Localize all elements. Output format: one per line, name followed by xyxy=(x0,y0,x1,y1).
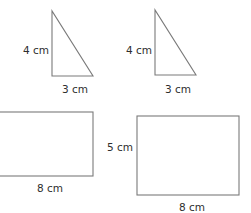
triangle-a-height-label: 4 cm xyxy=(23,44,49,56)
rectangle-a-outline xyxy=(0,112,93,176)
rectangle-a: 8 cm xyxy=(0,112,93,194)
triangle-b-height-label: 4 cm xyxy=(126,44,152,56)
rectangle-b-width-label: 8 cm xyxy=(179,201,205,213)
triangle-b: 4 cm 3 cm xyxy=(126,10,196,95)
triangle-a-outline xyxy=(52,11,93,76)
triangle-a-base-label: 3 cm xyxy=(62,83,88,95)
triangle-a: 4 cm 3 cm xyxy=(23,11,93,95)
rectangle-a-width-label: 8 cm xyxy=(37,182,63,194)
triangle-b-outline xyxy=(155,10,196,75)
shapes-diagram: 4 cm 3 cm 4 cm 3 cm 8 cm 5 cm 8 cm xyxy=(0,0,251,213)
rectangle-b-height-label: 5 cm xyxy=(107,141,133,153)
rectangle-b-outline xyxy=(137,116,239,195)
rectangle-b: 5 cm 8 cm xyxy=(107,116,239,213)
triangle-b-base-label: 3 cm xyxy=(165,83,191,95)
